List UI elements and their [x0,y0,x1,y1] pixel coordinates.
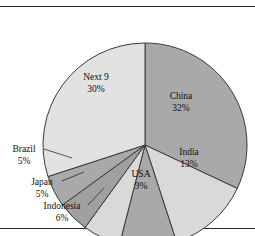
slice-name-china: China [170,91,193,101]
slice-value-china: 32% [172,103,190,113]
slice-name-indonesia: Indonesia [44,201,82,211]
slice-value-india: 13% [180,159,198,169]
pie-chart: China32%India13%USA9%Indonesia6%Japan5%B… [0,0,255,236]
slice-value-indonesia: 6% [56,213,69,223]
slice-value-usa: 9% [135,181,148,191]
slice-value-japan: 5% [36,189,49,199]
slice-value-brazil: 5% [18,156,31,166]
figure-container: China32%India13%USA9%Indonesia6%Japan5%B… [0,0,255,236]
slice-value-next-9: 30% [87,84,105,94]
slice-name-india: India [179,147,199,157]
slice-name-usa: USA [131,169,150,179]
slice-name-brazil: Brazil [12,144,36,154]
slice-name-japan: Japan [31,177,53,187]
slice-name-next-9: Next 9 [83,72,109,82]
